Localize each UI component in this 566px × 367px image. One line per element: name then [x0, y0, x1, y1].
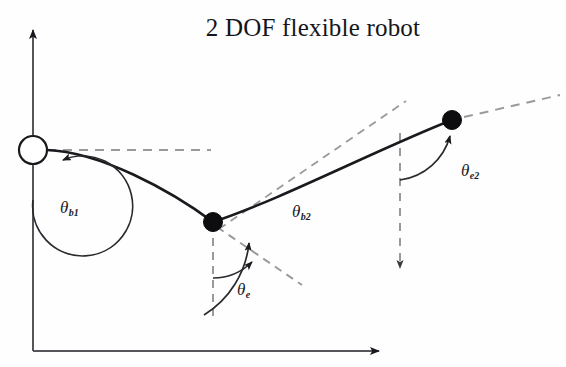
- theta-b2-symbol: θ: [292, 202, 300, 221]
- theta-e-label: θe: [237, 281, 250, 300]
- theta-b1-subscript: b1: [69, 207, 79, 218]
- theta-b2-label: θb2: [292, 203, 311, 222]
- axis-group: [33, 30, 379, 351]
- theta-e-symbol: θ: [237, 280, 245, 299]
- end-effector-node[interactable]: [443, 111, 462, 130]
- mid-joint-node[interactable]: [204, 213, 223, 232]
- end-tangent-dashed-line: [464, 95, 560, 117]
- diagram-svg: [0, 0, 566, 367]
- robot-link-group: [47, 120, 452, 222]
- theta-e-arc: [213, 262, 252, 278]
- base-hub-node[interactable]: [19, 136, 47, 164]
- theta-b2-subscript: b2: [301, 211, 311, 222]
- theta-e2-label: θe2: [461, 162, 479, 181]
- figure-canvas: 2 DOF flexible robot: [0, 0, 566, 367]
- theta-e2-arc: [400, 136, 450, 180]
- theta-b2-arc: [204, 243, 249, 315]
- theta-b1-symbol: θ: [60, 198, 68, 217]
- theta-e2-subscript: e2: [470, 170, 479, 181]
- theta-b1-label: θb1: [60, 199, 79, 218]
- theta-e2-symbol: θ: [461, 161, 469, 180]
- link-2-beam: [213, 120, 452, 222]
- theta-e-subscript: e: [246, 289, 250, 300]
- theta-b1-arc: [33, 156, 133, 256]
